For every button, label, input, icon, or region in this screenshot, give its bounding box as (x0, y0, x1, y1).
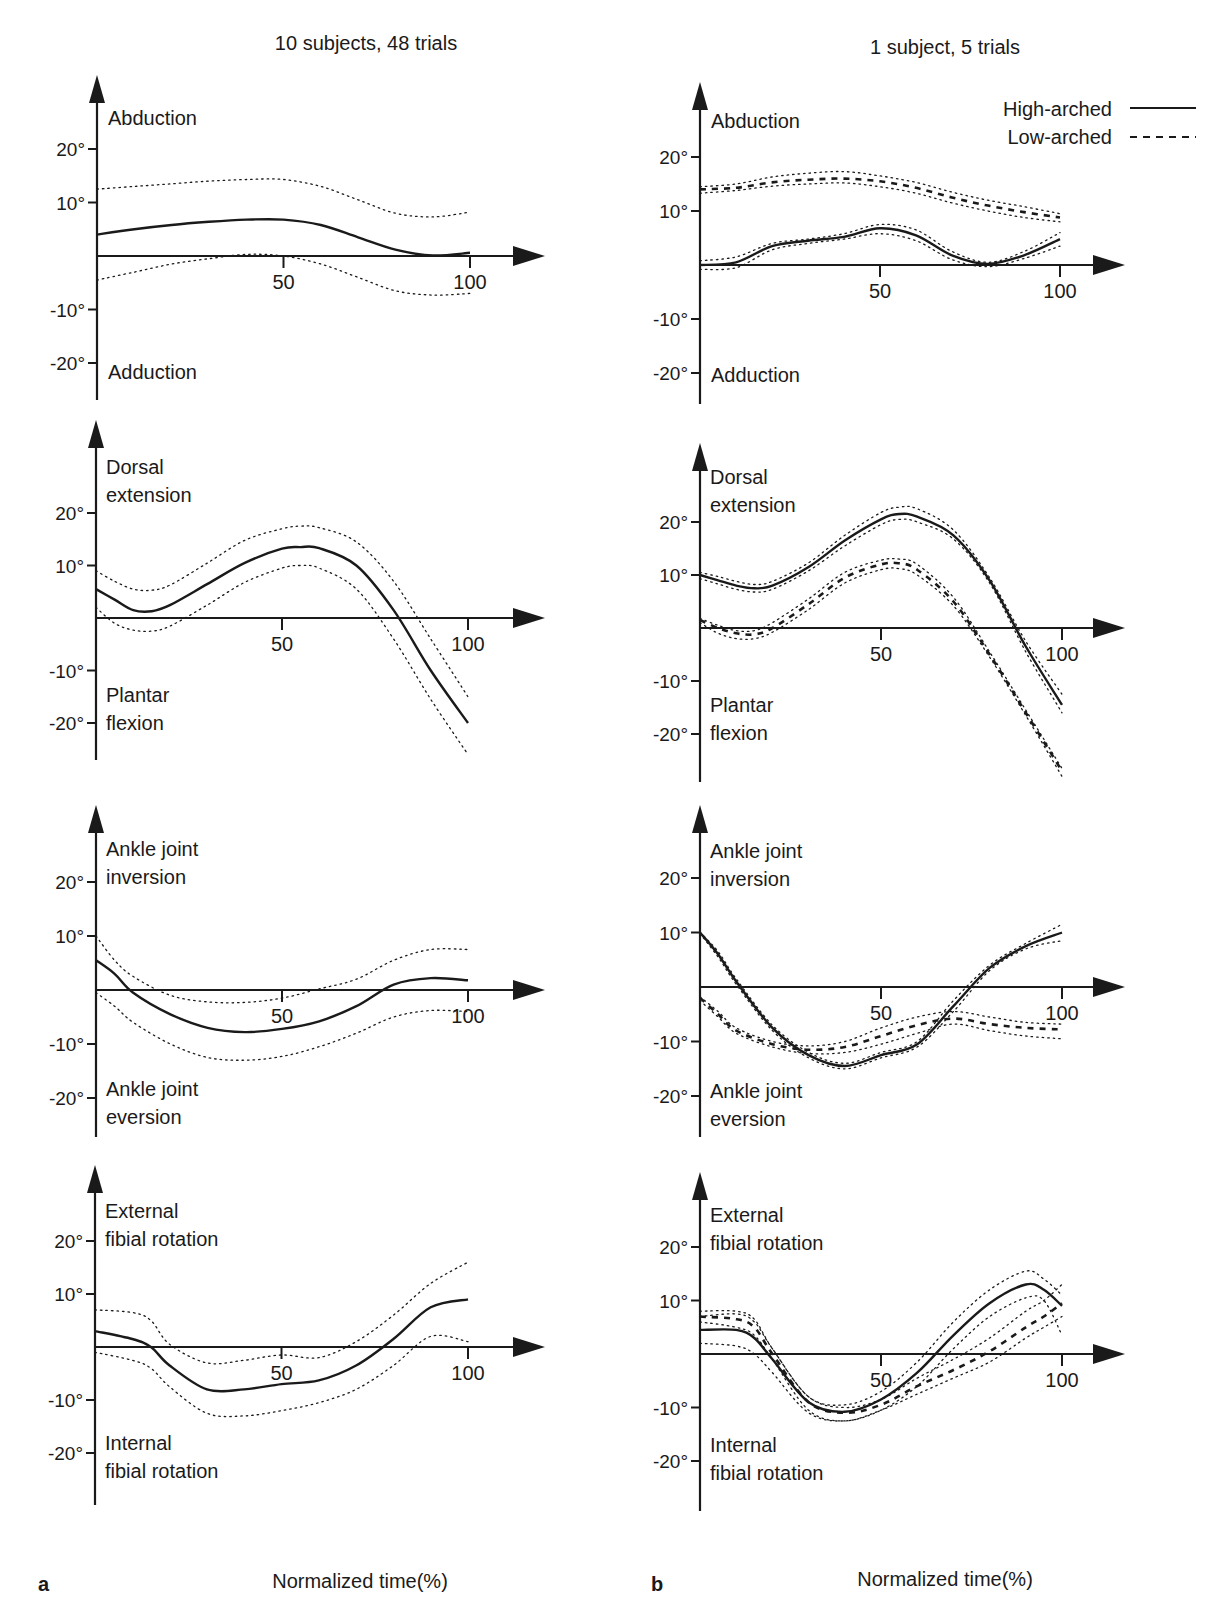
y-axis-arrow-icon (87, 1165, 103, 1193)
y-tick-label: -20° (653, 363, 688, 384)
y-tick-label: 20° (55, 872, 84, 893)
panel-letter-b: b (651, 1573, 663, 1595)
x-tick-label: 100 (451, 1362, 484, 1384)
y-tick-label: -10° (48, 1390, 83, 1411)
y-tick-label: 20° (54, 1231, 83, 1252)
y-direction-label-bottom: Ankle jointeversion (710, 1080, 803, 1130)
y-tick-label: -10° (49, 661, 84, 682)
kinematics-figure: 10 subjects, 48 trials 1 subject, 5 tria… (0, 0, 1212, 1622)
chart-panel-b-4: 20°10°-10°-20°50100Externalfibial rotati… (653, 1172, 1125, 1511)
x-tick-label: 100 (1045, 1369, 1078, 1391)
col-title-b: 1 subject, 5 trials (870, 36, 1020, 58)
y-direction-label-top: Dorsalextension (710, 466, 796, 516)
legend-label-low-arched: Low-arched (1007, 126, 1112, 148)
y-tick-label: 10° (56, 193, 85, 214)
x-tick-label: 50 (870, 1002, 892, 1024)
panel-letter-a: a (38, 1573, 50, 1595)
x-tick-label: 100 (1045, 643, 1078, 665)
x-axis-arrow-icon (1093, 1344, 1125, 1364)
x-axis-arrow-icon (1093, 618, 1125, 638)
x-tick-label: 100 (451, 1005, 484, 1027)
x-axis-arrow-icon (513, 1337, 545, 1357)
y-axis-arrow-icon (692, 443, 708, 471)
series-low-arched (700, 179, 1060, 218)
x-tick-label: 50 (272, 271, 294, 293)
y-direction-label-top: Abduction (711, 110, 800, 132)
y-tick-label: 10° (659, 565, 688, 586)
y-tick-label: -20° (48, 1443, 83, 1464)
y-axis-arrow-icon (692, 1172, 708, 1200)
y-tick-label: 20° (659, 868, 688, 889)
y-tick-label: 20° (659, 1237, 688, 1258)
series-low-arched-sd (700, 171, 1060, 213)
series-high-arched-sd (700, 506, 1062, 694)
x-tick-label: 50 (271, 633, 293, 655)
x-axis-arrow-icon (513, 608, 545, 628)
x-tick-label: 50 (869, 280, 891, 302)
chart-panel-b-3: 20°10°-10°-20°50100Ankle jointinversionA… (653, 805, 1125, 1137)
y-direction-label-bottom: Plantarflexion (106, 684, 170, 734)
y-axis-arrow-icon (89, 75, 105, 103)
x-tick-label: 100 (1045, 1002, 1078, 1024)
chart-panel-a-1: 20°10°-10°-20°50100AbductionAdduction (50, 75, 545, 400)
x-tick-label: 50 (270, 1362, 292, 1384)
x-tick-label: 100 (1043, 280, 1076, 302)
x-tick-label: 100 (453, 271, 486, 293)
y-tick-label: -10° (653, 309, 688, 330)
y-tick-label: 20° (659, 147, 688, 168)
x-tick-label: 50 (271, 1005, 293, 1027)
y-tick-label: -20° (49, 1088, 84, 1109)
x-tick-label: 50 (870, 1369, 892, 1391)
y-direction-label-bottom: Internalfibial rotation (105, 1432, 218, 1482)
y-direction-label-top: Ankle jointinversion (106, 838, 199, 888)
y-tick-label: 10° (659, 1291, 688, 1312)
y-direction-label-bottom: Plantarflexion (710, 694, 774, 744)
y-tick-label: -10° (653, 1398, 688, 1419)
x-axis-arrow-icon (1093, 255, 1125, 275)
legend-label-high-arched: High-arched (1003, 98, 1112, 120)
y-tick-label: -10° (49, 1034, 84, 1055)
legend: High-arched Low-arched (1003, 98, 1196, 148)
y-direction-label-bottom: Adduction (108, 361, 197, 383)
y-tick-label: 20° (659, 512, 688, 533)
chart-panel-a-3: 20°10°-10°-20°50100Ankle jointinversionA… (49, 805, 545, 1137)
y-tick-label: 20° (56, 139, 85, 160)
series--1-sd (97, 179, 470, 217)
series-low-arched-sd (700, 568, 1062, 776)
xlabel-b: Normalized time(%) (857, 1568, 1033, 1590)
y-direction-label-top: Ankle jointinversion (710, 840, 803, 890)
x-axis-arrow-icon (1093, 977, 1125, 997)
y-direction-label-bottom: Internalfibial rotation (710, 1434, 823, 1484)
y-tick-label: -10° (653, 671, 688, 692)
panels: 20°10°-10°-20°50100AbductionAdduction20°… (48, 75, 1125, 1511)
y-direction-label-top: Externalfibial rotation (710, 1204, 823, 1254)
y-axis-arrow-icon (692, 805, 708, 833)
chart-panel-a-4: 20°10°-10°-20°50100Externalfibial rotati… (48, 1165, 545, 1505)
y-tick-label: -20° (653, 1451, 688, 1472)
y-tick-label: -10° (653, 1032, 688, 1053)
y-direction-label-top: Dorsalextension (106, 456, 192, 506)
x-axis-arrow-icon (513, 246, 545, 266)
col-title-a: 10 subjects, 48 trials (275, 32, 457, 54)
y-direction-label-bottom: Ankle jointeversion (106, 1078, 199, 1128)
y-axis-arrow-icon (692, 82, 708, 110)
y-tick-label: -10° (50, 300, 85, 321)
x-axis-arrow-icon (513, 980, 545, 1000)
y-tick-label: 10° (659, 201, 688, 222)
series-high-arched (700, 1284, 1062, 1412)
y-tick-label: -20° (50, 353, 85, 374)
chart-panel-b-2: 20°10°-10°-20°50100DorsalextensionPlanta… (653, 443, 1125, 782)
y-direction-label-top: Externalfibial rotation (105, 1200, 218, 1250)
y-tick-label: 10° (55, 926, 84, 947)
y-tick-label: 10° (54, 1284, 83, 1305)
series-low-arched-sd (700, 183, 1060, 222)
y-tick-label: -20° (653, 724, 688, 745)
series-mean (97, 219, 470, 255)
y-tick-label: -20° (653, 1086, 688, 1107)
series-high-arched (700, 933, 1062, 1067)
x-tick-label: 50 (870, 643, 892, 665)
y-direction-label-top: Abduction (108, 107, 197, 129)
chart-panel-a-2: 20°10°-10°-20°50100DorsalextensionPlanta… (49, 420, 545, 760)
y-tick-label: 10° (659, 923, 688, 944)
y-tick-label: 20° (55, 503, 84, 524)
